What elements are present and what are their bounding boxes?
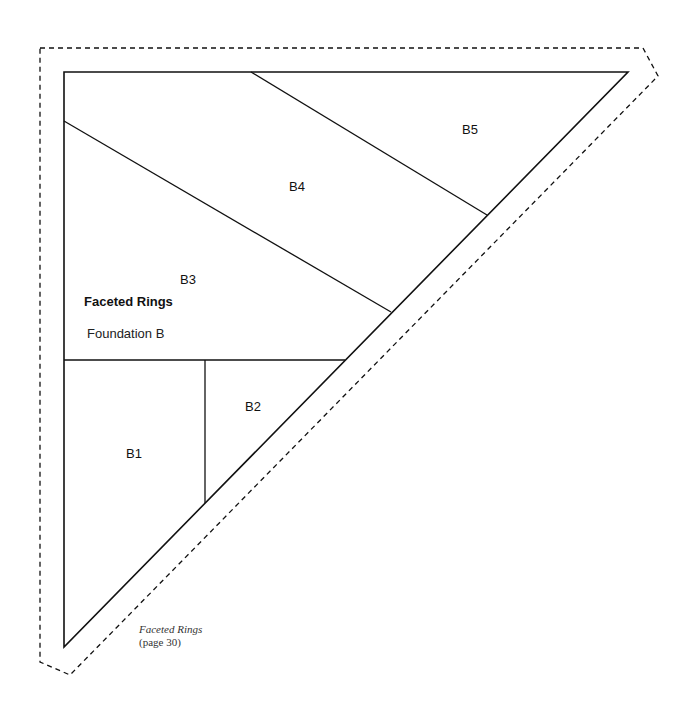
seam-b3-b4 — [64, 121, 391, 312]
seam-b4-b5 — [251, 72, 487, 215]
piece-label-b4: B4 — [289, 180, 305, 193]
foundation-subtitle: Foundation B — [87, 327, 164, 340]
seam-allowance-outline — [40, 48, 658, 675]
source-caption: Faceted Rings (page 30) — [139, 623, 202, 649]
piece-label-b1: B1 — [126, 447, 142, 460]
piece-label-b3: B3 — [180, 273, 196, 286]
caption-title: Faceted Rings — [139, 623, 202, 636]
piece-label-b2: B2 — [245, 400, 261, 413]
pattern-title: Faceted Rings — [84, 295, 173, 308]
caption-page-ref: (page 30) — [139, 636, 202, 649]
piece-label-b5: B5 — [462, 123, 478, 136]
foundation-pattern-diagram — [0, 0, 691, 719]
